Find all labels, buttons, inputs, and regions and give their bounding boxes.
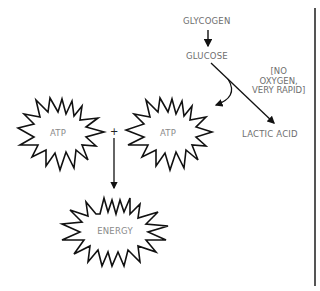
arrow-glucose-to-atp — [216, 79, 232, 105]
condition-note: [NO OXYGEN, VERY RAPID] — [252, 67, 305, 96]
condition-note-line-3: VERY RAPID] — [252, 86, 305, 96]
lactic-acid-label: LACTIC ACID — [242, 130, 298, 139]
glycogen-label: GLYCOGEN — [183, 17, 230, 26]
plus-sign: + — [110, 127, 119, 137]
glucose-label: GLUCOSE — [186, 52, 228, 61]
atp-label-right: ATP — [160, 128, 176, 138]
page-edge-rule — [314, 8, 316, 286]
atp-label-left: ATP — [50, 128, 66, 138]
diagram-canvas — [0, 0, 320, 291]
energy-label: ENERGY — [97, 226, 133, 236]
